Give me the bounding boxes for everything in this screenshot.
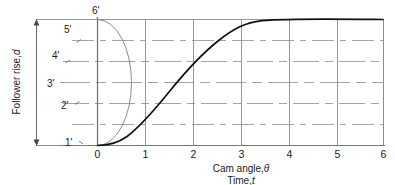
x-tick-3: 3 [239,148,245,160]
x-tick-4: 4 [287,148,293,160]
y-axis-title: Follower rise,d [11,49,22,114]
arc-tick-5 [77,40,82,43]
arc-label-4: 4' [52,50,60,61]
figure-canvas: 1' 2' 3' 4' 5' 6' 0 1 2 3 4 5 6 Cam angl… [0,0,395,185]
cam-displacement-diagram: 1' 2' 3' 4' 5' 6' 0 1 2 3 4 5 6 Cam angl… [0,0,395,185]
rise-dimension-arrow [34,19,40,146]
arc-tick-2 [75,102,80,105]
x-tick-1: 1 [143,148,149,160]
arc-label-3: 3' [47,78,55,89]
y-axis-title-follower-rise: Follower rise, [11,55,22,114]
x-axis-title-t-symbol: t [252,175,256,185]
x-tick-5: 5 [335,148,341,160]
construction-point-labels: 1' 2' 3' 4' 5' 6' [47,5,100,148]
x-axis-title-time: Time, [227,175,252,185]
x-tick-2: 2 [191,148,197,160]
arc-label-1: 1' [65,137,73,148]
arc-label-5: 5' [64,24,72,35]
arc-point-ticks [66,40,84,145]
horizontal-gridlines [36,20,383,146]
x-axis-title: Cam angle,θ Time,t [213,163,270,185]
x-tick-0: 0 [95,148,101,160]
x-axis-title-cam-angle: Cam angle, [213,163,264,174]
arc-label-2: 2' [61,100,69,111]
x-axis-tick-labels: 0 1 2 3 4 5 6 [95,148,387,160]
x-tick-6: 6 [381,148,387,160]
x-axis-title-theta-symbol: θ [264,163,270,174]
rise-arrow-head-top [34,19,40,26]
x-axis-title-line2: Time,t [227,175,256,185]
arc-tick-1 [79,141,83,144]
x-axis-title-line1: Cam angle,θ [213,163,270,174]
y-axis-title-d-symbol: d [11,49,22,55]
arc-label-6: 6' [92,5,100,16]
